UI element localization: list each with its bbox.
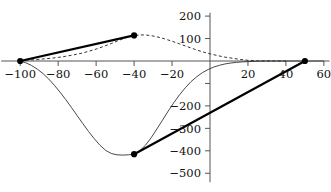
y-tick-label: −500 [169,166,201,180]
y-tick-label: 200 [179,9,201,23]
y-tick-label: 100 [179,32,201,46]
marker-left [17,58,23,64]
x-tick-label: −100 [4,67,36,81]
y-axis-ticks [205,16,210,173]
x-axis-tick-labels: −100−80−60−40−20204060 [4,67,331,81]
data-series-group [20,35,324,155]
series-chord-upper [20,35,134,61]
marker-right [302,58,308,64]
x-tick-label: 60 [317,67,331,81]
y-tick-label: −300 [169,122,201,136]
x-axis-ticks [20,61,324,66]
axes-group [1,13,329,182]
x-tick-label: −40 [122,67,146,81]
marker-bottom [131,151,137,157]
x-tick-label: 40 [279,67,294,81]
x-tick-label: −80 [46,67,70,81]
series-dashed-curve [20,35,286,61]
marker-top [131,32,137,38]
y-tick-label: −400 [169,144,201,158]
x-tick-label: −60 [84,67,108,81]
x-tick-label: −20 [160,67,184,81]
x-tick-label: 20 [241,67,256,81]
plot-area: −100−80−60−40−20204060 200100−200−300−40… [0,0,331,192]
y-axis-tick-labels: 200100−200−300−400−500 [169,9,201,180]
chart-figure: −100−80−60−40−20204060 200100−200−300−40… [0,0,331,192]
y-tick-label: −200 [169,99,201,113]
